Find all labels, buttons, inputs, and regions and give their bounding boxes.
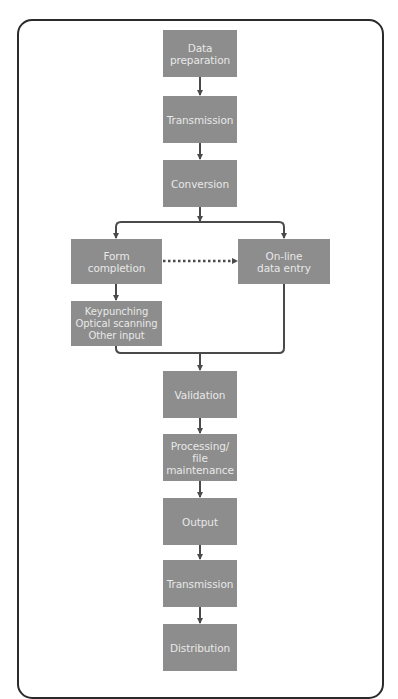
- node-transmission-2: Transmission: [163, 560, 237, 607]
- node-validation: Validation: [163, 371, 237, 418]
- node-input-methods: Keypunching Optical scanning Other input: [71, 301, 162, 346]
- branch-line: [116, 222, 284, 238]
- node-form-completion: Form completion: [71, 239, 162, 284]
- node-online-data-entry: On-line data entry: [238, 239, 330, 284]
- node-conversion: Conversion: [163, 160, 237, 207]
- node-data-preparation: Data preparation: [163, 30, 237, 77]
- node-processing: Processing/ file maintenance: [163, 434, 237, 481]
- node-output: Output: [163, 498, 237, 545]
- node-transmission-1: Transmission: [163, 96, 237, 143]
- node-distribution: Distribution: [163, 624, 237, 671]
